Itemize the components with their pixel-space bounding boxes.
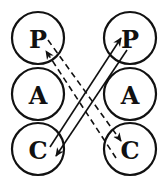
- left-person: P A C: [12, 12, 64, 175]
- right-person: P A C: [104, 12, 156, 175]
- pac-diagram: P A C P A C: [0, 0, 167, 187]
- left-adult-label: A: [28, 81, 48, 110]
- left-parent-label: P: [29, 25, 47, 54]
- right-child-label: C: [120, 136, 139, 165]
- left-child-label: C: [28, 136, 47, 165]
- right-parent-label: P: [121, 25, 139, 54]
- right-adult-label: A: [120, 81, 140, 110]
